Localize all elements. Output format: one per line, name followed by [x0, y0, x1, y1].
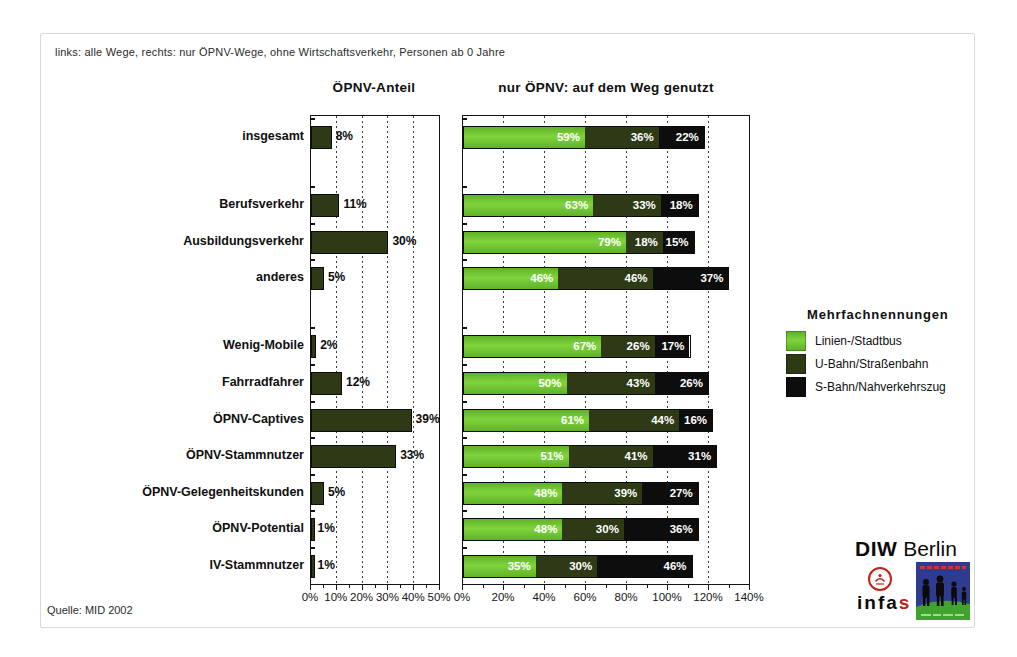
- stacked-bar: 61%44%16%: [463, 409, 713, 432]
- infas-globe-icon: [867, 566, 893, 592]
- stacked-bar: 51%41%31%: [463, 445, 717, 468]
- legend-swatch: [786, 331, 806, 351]
- stacked-bar-segment: 17%: [655, 336, 690, 357]
- stacked-bar: 79%18%15%: [463, 231, 695, 254]
- stacked-bar-segment: 18%: [661, 195, 698, 216]
- legend: Mehrfachnennungen Linien-/StadtbusU-Bahn…: [786, 307, 948, 400]
- stacked-bar-segment: 46%: [464, 268, 558, 289]
- bar: [311, 194, 339, 217]
- category-label: ÖPNV-Gelegenheitskunden: [40, 481, 304, 504]
- axis-tick: [375, 585, 376, 588]
- bar-value-label: 2%: [320, 334, 337, 357]
- axis-tick: [462, 585, 463, 590]
- legend-item-label: Linien-/Stadtbus: [815, 334, 902, 348]
- stacked-bar-segment: 79%: [464, 232, 626, 253]
- axis-tick: [349, 585, 350, 588]
- axis-notch: [311, 510, 315, 512]
- axis-tick: [544, 585, 545, 590]
- axis-notch: [311, 547, 315, 549]
- bar-value-label: 1%: [318, 517, 335, 540]
- axis-notch: [463, 327, 467, 329]
- axis-tick-label: 120%: [686, 591, 730, 603]
- category-label: Fahrradfahrer: [40, 371, 304, 394]
- infas-logo: infas: [857, 592, 911, 614]
- axis-tick: [426, 585, 427, 588]
- gridline: [362, 116, 363, 584]
- bar-value-label: 11%: [343, 193, 366, 216]
- stacked-bar-segment: 22%: [659, 127, 704, 148]
- legend-swatch: [786, 377, 806, 397]
- axis-tick: [729, 585, 730, 588]
- axis-tick: [749, 585, 750, 590]
- legend-item-label: U-Bahn/Straßenbahn: [815, 357, 928, 371]
- bar-value-label: 12%: [346, 371, 370, 394]
- axis-tick-label: 100%: [645, 591, 689, 603]
- mid-cover-image: [916, 562, 970, 620]
- diw-berlin-logo: DIW Berlin: [855, 538, 980, 560]
- gridline: [439, 116, 440, 584]
- axis-tick-label: 80%: [604, 591, 648, 603]
- stacked-bar-segment: 67%: [464, 336, 601, 357]
- stacked-bar-segment: 63%: [464, 195, 593, 216]
- bar: [311, 445, 396, 468]
- axis-notch: [463, 118, 467, 120]
- bar-value-label: 5%: [328, 266, 345, 289]
- stacked-bar: 48%39%27%: [463, 482, 699, 505]
- axis-notch: [311, 401, 315, 403]
- stacked-bar-segment: 61%: [464, 410, 589, 431]
- diw-logo-text: DIW: [855, 537, 897, 560]
- category-label: Wenig-Mobile: [40, 334, 304, 357]
- axis-tick: [524, 585, 525, 588]
- left-chart-title: ÖPNV-Anteil: [282, 80, 466, 95]
- axis-tick: [310, 585, 311, 590]
- stacked-bar-segment: 51%: [464, 446, 569, 467]
- axis-notch: [463, 437, 467, 439]
- legend-item-label: S-Bahn/Nahverkehrszug: [815, 380, 946, 394]
- infas-logo-accent: s: [899, 592, 912, 613]
- stacked-bar-segment: 15%: [663, 232, 694, 253]
- category-label: ÖPNV-Captives: [40, 408, 304, 431]
- stacked-bar-segment: 16%: [679, 410, 712, 431]
- axis-tick: [606, 585, 607, 588]
- axis-notch: [463, 584, 467, 585]
- bar-value-label: 33%: [400, 444, 424, 467]
- axis-tick: [503, 585, 504, 590]
- axis-notch: [463, 186, 467, 188]
- bar-value-label: 30%: [392, 230, 416, 253]
- axis-notch: [311, 364, 315, 366]
- axis-notch: [463, 510, 467, 512]
- stacked-bar-segment: 30%: [562, 519, 624, 540]
- stacked-bar-segment: 33%: [593, 195, 661, 216]
- bar: [311, 335, 316, 358]
- axis-tick: [626, 585, 627, 590]
- stacked-bar-segment: 50%: [464, 373, 567, 394]
- axis-tick-label: 60%: [563, 591, 607, 603]
- axis-tick: [647, 585, 648, 588]
- axis-notch: [463, 474, 467, 476]
- axis-tick: [323, 585, 324, 588]
- stacked-bar-segment: 26%: [601, 336, 654, 357]
- axis-tick: [400, 585, 401, 588]
- bar: [311, 267, 324, 290]
- stacked-bar-segment: 48%: [464, 483, 562, 504]
- gridline: [387, 116, 388, 584]
- stacked-bar-segment: 43%: [567, 373, 655, 394]
- logo-block: DIW Berlin infas: [855, 538, 980, 630]
- category-label: ÖPNV-Stammnutzer: [40, 444, 304, 467]
- stacked-bar-segment: 26%: [655, 373, 708, 394]
- axis-notch: [463, 364, 467, 366]
- stacked-bar-segment: 27%: [642, 483, 697, 504]
- axis-notch: [311, 474, 315, 476]
- stacked-bar-segment: 18%: [626, 232, 663, 253]
- infas-logo-text: infa: [857, 592, 899, 613]
- bar: [311, 518, 315, 541]
- axis-tick: [387, 585, 388, 590]
- category-label: ÖPNV-Potential: [40, 517, 304, 540]
- bar: [311, 482, 324, 505]
- bar-value-label: 8%: [336, 125, 353, 148]
- axis-notch: [463, 401, 467, 403]
- right-chart-title: nur ÖPNV: auf dem Weg genutzt: [460, 80, 752, 95]
- stacked-bar-segment: 30%: [536, 556, 598, 577]
- axis-tick: [688, 585, 689, 588]
- bar-value-label: 39%: [416, 408, 440, 431]
